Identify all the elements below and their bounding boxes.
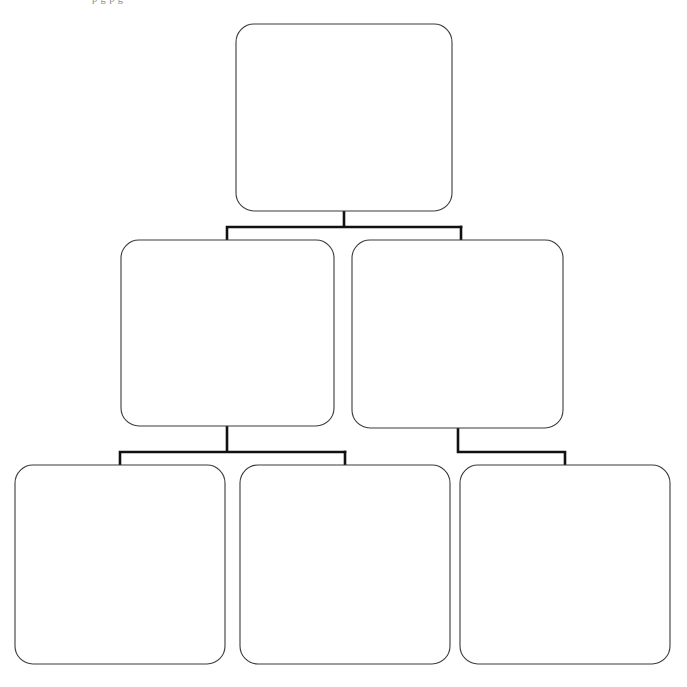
node-leaf-2-label: [240, 465, 450, 664]
node-mid-right-label: [352, 240, 563, 428]
hierarchy-diagram: p g p g: [0, 0, 687, 687]
node-leaf-1-label: [15, 465, 225, 664]
edge-mid-right-to-leaf-3: [458, 428, 565, 465]
node-root-label: [236, 24, 452, 211]
edge-root-to-mid-left: [227, 211, 461, 240]
edge-mid-left-to-leaf-1: [120, 426, 345, 465]
node-mid-left-label: [121, 240, 334, 426]
node-leaf-3-label: [460, 465, 670, 664]
